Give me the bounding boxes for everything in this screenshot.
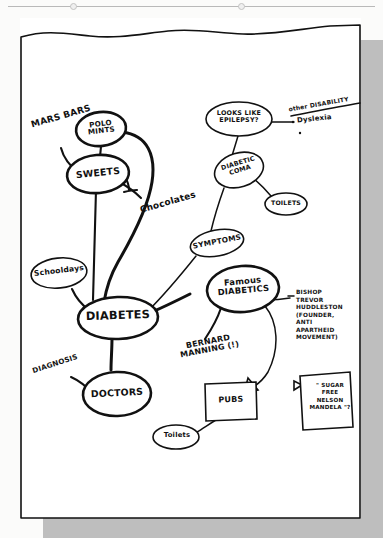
dyslexia-bullet	[292, 121, 294, 123]
node-label-pubs: PUBS	[212, 395, 250, 404]
node-label-toilets-pubs: Toilets	[158, 432, 196, 439]
connector-famousdiabetics-pubs	[248, 306, 276, 390]
connector-symptoms-diabeticcoma	[211, 188, 224, 231]
node-label-looks-like-epilepsy: LOOKS LIKE EPILEPSY?	[209, 110, 269, 123]
annotation-huddleston-note: BISHOP TREVOR HUDDLESTON (FOUNDER, ANTI …	[296, 289, 358, 342]
connector-diabetes-famousdiabetics	[152, 294, 190, 312]
mindmap-canvas: .stroke { fill:none; stroke:#111; stroke…	[0, 0, 383, 538]
connector-sweets-diabetes	[93, 190, 96, 300]
dyslexia-bullet-secondary	[299, 132, 301, 134]
node-label-toilets-coma: TOILETS	[268, 200, 304, 206]
node-label-diabetes: DIABETES	[80, 309, 156, 323]
connector-diabetes-doctors	[111, 338, 112, 370]
sticky-note-label: " SUGAR FREE NELSON MANDELA "?	[307, 382, 353, 412]
